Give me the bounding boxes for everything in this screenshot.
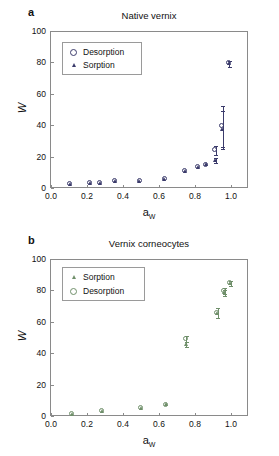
- panel-b-xtick-mark-5: [231, 413, 232, 416]
- panel-b-x-axis-title: aW: [50, 434, 248, 448]
- panel-b-x-axis-sub: W: [149, 441, 156, 448]
- data-point-desorption: [112, 178, 117, 183]
- error-bar-cap: [216, 318, 220, 319]
- panel-a-xtick-mark-1: [87, 185, 88, 188]
- data-point-desorption: [162, 176, 167, 181]
- error-bar-cap: [229, 286, 233, 287]
- panel-b-ytick-4: 80: [20, 285, 46, 295]
- panel-b-xtick-mark-3: [159, 413, 160, 416]
- panel-a-xtick-1: 0.2: [74, 191, 100, 201]
- panel-a-x-axis-sub: W: [149, 213, 156, 220]
- panel-b-legend-label-desorption: Desorption: [83, 286, 124, 296]
- panel-a-letter: a: [28, 6, 34, 18]
- panel-a-ytick-mark-2: [51, 125, 54, 126]
- panel-b-xtick-1: 0.2: [74, 419, 100, 429]
- panel-a-xtick-5: 1.0: [218, 191, 244, 201]
- panel-a-y-axis-title: W: [16, 98, 28, 118]
- panel-b-legend: Sorption Desorption: [62, 267, 145, 301]
- panel-b-title: Vernix corneocytes: [50, 238, 248, 249]
- panel-b-xtick-3: 0.6: [146, 419, 172, 429]
- panel-b-xtick-5: 1.0: [218, 419, 244, 429]
- panel-a-xtick-4: 0.8: [182, 191, 208, 201]
- panel-a-ytick-mark-3: [51, 94, 54, 95]
- panel-b-xtick-mark-2: [123, 413, 124, 416]
- panel-a-ytick-4: 80: [20, 57, 46, 67]
- panel-a-ytick-mark-4: [51, 62, 54, 63]
- error-bar-cap: [221, 149, 225, 150]
- circle-open-marker-icon: [69, 288, 78, 295]
- data-point-sorption: [213, 158, 217, 162]
- panel-a-legend-label-desorption: Desorption: [83, 47, 124, 57]
- error-bar-cap: [228, 67, 232, 68]
- panel-b-ytick-mark-0: [51, 416, 54, 417]
- panel-a-legend-item-sorption: Sorption: [69, 60, 115, 70]
- data-point-desorption: [87, 180, 92, 185]
- panel-b-letter: b: [28, 234, 35, 246]
- data-point-desorption: [182, 168, 187, 173]
- error-bar-cap: [223, 296, 227, 297]
- error-bar-cap: [223, 294, 227, 295]
- data-point-desorption: [137, 178, 142, 183]
- triangle-filled-marker-icon: [69, 275, 78, 279]
- panel-b-ytick-2: 40: [20, 348, 46, 358]
- panel-a-ytick-5: 100: [20, 26, 46, 36]
- panel-a-xtick-mark-2: [123, 185, 124, 188]
- data-point-desorption: [214, 310, 219, 315]
- panel-a-xtick-mark-4: [195, 185, 196, 188]
- data-point-desorption: [99, 408, 104, 413]
- figure-panel-b: b Vernix corneocytes W aW 0 20 40 60 80 …: [0, 228, 279, 456]
- panel-a-ytick-3: 60: [20, 89, 46, 99]
- circle-open-marker-icon: [69, 49, 78, 56]
- error-bar-cap: [185, 347, 189, 348]
- panel-b-xtick-mark-4: [195, 413, 196, 416]
- panel-a-legend-label-sorption: Sorption: [83, 60, 115, 70]
- panel-a-xtick-2: 0.4: [110, 191, 136, 201]
- data-point-desorption: [163, 402, 168, 407]
- panel-b-xtick-0: 0.0: [38, 419, 64, 429]
- panel-a-x-axis-title: aW: [50, 206, 248, 220]
- data-point-desorption: [69, 411, 74, 416]
- panel-b-ytick-mark-3: [51, 322, 54, 323]
- panel-b-legend-label-sorption: Sorption: [83, 272, 115, 282]
- panel-a-xtick-mark-3: [159, 185, 160, 188]
- panel-b-legend-item-desorption: Desorption: [69, 286, 124, 296]
- panel-a-ytick-2: 40: [20, 120, 46, 130]
- panel-b-xtick-2: 0.4: [110, 419, 136, 429]
- panel-a-title: Native vernix: [50, 10, 248, 21]
- data-point-desorption: [183, 336, 188, 341]
- panel-a-ytick-1: 20: [20, 152, 46, 162]
- data-point-desorption: [221, 288, 226, 293]
- figure-panel-a: a Native vernix W aW 0 20 40 60 80 100 0…: [0, 0, 279, 228]
- panel-a-ytick-mark-5: [51, 31, 54, 32]
- error-bar-cap: [214, 163, 218, 164]
- panel-b-xtick-mark-1: [87, 413, 88, 416]
- panel-a-legend-item-desorption: Desorption: [69, 47, 124, 57]
- panel-a-xtick-3: 0.6: [146, 191, 172, 201]
- panel-a-xtick-0: 0.0: [38, 191, 64, 201]
- triangle-filled-marker-icon: [69, 63, 78, 67]
- panel-b-ytick-mark-5: [51, 259, 54, 260]
- panel-a-ytick-mark-1: [51, 157, 54, 158]
- panel-a-ytick-mark-0: [51, 188, 54, 189]
- panel-b-ytick-3: 60: [20, 317, 46, 327]
- error-bar-cap: [221, 106, 225, 107]
- panel-b-legend-item-sorption: Sorption: [69, 272, 115, 282]
- panel-b-ytick-5: 100: [20, 254, 46, 264]
- panel-b-ytick-1: 20: [20, 380, 46, 390]
- panel-b-ytick-mark-2: [51, 353, 54, 354]
- panel-b-ytick-mark-4: [51, 290, 54, 291]
- panel-b-xtick-4: 0.8: [182, 419, 208, 429]
- panel-a-xtick-mark-0: [51, 185, 52, 188]
- panel-b-y-axis-title: W: [16, 326, 28, 346]
- error-bar-cap: [185, 342, 189, 343]
- panel-a-xtick-mark-5: [231, 185, 232, 188]
- panel-b-ytick-mark-1: [51, 385, 54, 386]
- error-bar-cap: [214, 155, 218, 156]
- panel-b-xtick-mark-0: [51, 413, 52, 416]
- error-bar-cap: [221, 147, 225, 148]
- panel-a-legend: Desorption Sorption: [62, 42, 142, 75]
